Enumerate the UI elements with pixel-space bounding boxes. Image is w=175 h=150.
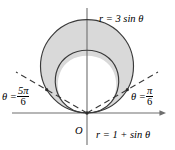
intersection-point-right <box>126 88 129 91</box>
intersection-point-left <box>45 88 48 91</box>
cardioid-equation-text: r = 1 + sin θ <box>96 129 150 140</box>
theta-right-denominator: 6 <box>146 97 153 108</box>
theta-pi-over-6-label: θ =π6 <box>131 86 153 108</box>
origin-label: O <box>75 126 83 137</box>
theta-5pi-over-6-label: θ =5π6 <box>2 86 29 108</box>
theta-left-denominator: 6 <box>17 97 30 108</box>
theta-right-fraction: π6 <box>146 86 153 108</box>
theta-left-fraction: 5π6 <box>17 86 30 108</box>
theta-left-prefix: θ = <box>2 91 17 102</box>
circle-equation-label: r = 3 sin θ <box>99 14 143 25</box>
polar-graph-figure: r = 3 sin θ r = 1 + sin θ θ =5π6 θ =π6 O <box>0 0 175 150</box>
circle-equation-text: r = 3 sin θ <box>99 13 143 24</box>
polar-plot-svg <box>0 0 175 150</box>
origin-label-text: O <box>75 125 83 136</box>
cardioid-equation-label: r = 1 + sin θ <box>96 130 150 141</box>
theta-right-prefix: θ = <box>131 91 146 102</box>
intersection-point-origin <box>85 111 88 114</box>
